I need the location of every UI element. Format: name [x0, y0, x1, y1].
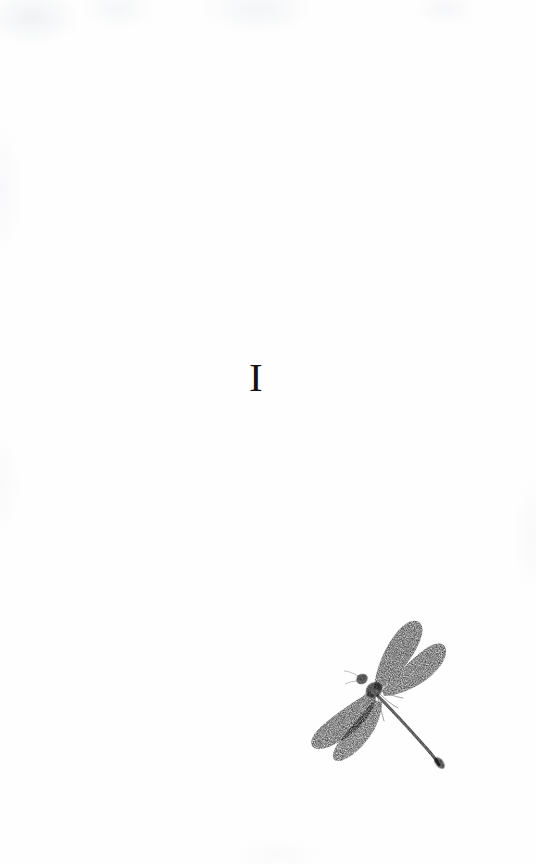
book-page: I — [0, 0, 536, 864]
dragonfly-illustration — [296, 608, 456, 776]
eye — [363, 680, 366, 683]
abdomen — [378, 696, 439, 765]
chapter-numeral: I — [0, 357, 512, 398]
eye — [358, 675, 362, 679]
head — [355, 672, 369, 686]
antennae — [344, 671, 359, 684]
